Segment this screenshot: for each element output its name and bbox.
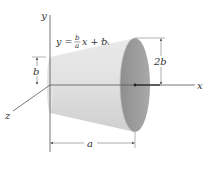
- svg-text:a: a: [87, 138, 93, 149]
- svg-text:x + b: x + b: [82, 36, 107, 47]
- svg-text:b: b: [75, 34, 80, 42]
- svg-text:b: b: [33, 66, 39, 77]
- x-axis-label: x: [197, 80, 203, 91]
- dimension-left-radius: b: [32, 57, 46, 85]
- dimension-length: a: [50, 132, 135, 149]
- z-axis: [13, 85, 50, 111]
- y-axis-label: y: [40, 10, 47, 21]
- svg-text:2b: 2b: [153, 56, 167, 67]
- svg-text:a: a: [75, 42, 79, 50]
- z-axis-label: z: [4, 110, 11, 121]
- svg-text:y =: y =: [55, 36, 72, 47]
- frustum-diagram: y x z y = b a x + b b 2b a: [0, 0, 204, 169]
